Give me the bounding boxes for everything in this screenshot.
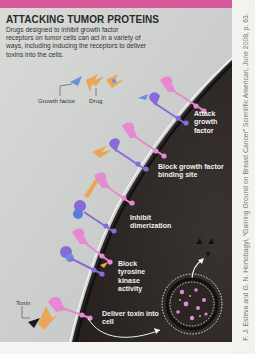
image-credit: F. J. Esteva and G. N. Hortobagyi, “Gain… [236,4,254,350]
legend-toxin: Toxin [16,299,30,306]
legend-drug: Drug [89,97,102,104]
figure-caption: Drugs designed to inhibit growth factor … [6,26,146,59]
top-accent-bar [0,0,232,8]
step-block-binding-site: Block growth factor binding site [158,163,230,180]
page-margin-bottom [0,342,232,354]
figure-title: ATTACKING TUMOR PROTEINS [6,14,159,25]
step-deliver-toxin: Deliver toxin into cell [102,310,162,327]
step-inhibit-dimerization: Inhibit dimerization [130,214,190,231]
step-attack-growth-factor: Attack growth factor [194,110,232,135]
credit-text: F. J. Esteva and G. N. Hortobagyi, “Gain… [242,13,249,341]
step-block-tyrosine-kinase: Block tyrosine kinase activity [118,260,162,294]
figure-panel: ATTACKING TUMOR PROTEINS Drugs designed … [0,0,232,342]
legend-growth-factor: Growth factor [38,97,75,104]
